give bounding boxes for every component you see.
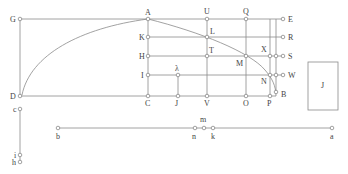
label-C: C (145, 99, 150, 108)
label-M: M (236, 59, 243, 68)
label-h: h (12, 158, 16, 167)
label-k: k (211, 132, 215, 141)
label-K: K (139, 33, 145, 42)
label-W: W (288, 71, 296, 80)
label-b: b (56, 132, 60, 141)
label-S: S (288, 52, 292, 61)
points (18, 17, 334, 164)
label-m: m (200, 115, 207, 124)
label-X: X (261, 45, 267, 54)
label-lambda: λ (175, 64, 179, 73)
label-A: A (145, 8, 151, 17)
curve-parabola-DA (22, 19, 148, 95)
label-U: U (204, 7, 210, 16)
label-Q: Q (243, 7, 249, 16)
label-c: c (13, 105, 17, 114)
label-D: D (10, 92, 16, 101)
label-G: G (10, 15, 16, 24)
label-n: n (192, 132, 196, 141)
label-V: V (204, 99, 210, 108)
label-H: H (139, 52, 145, 61)
label-box-J: J (321, 81, 324, 90)
label-L: L (210, 27, 215, 36)
label-B: B (281, 90, 286, 99)
label-R: R (288, 33, 294, 42)
label-E: E (288, 15, 293, 24)
label-O: O (243, 99, 249, 108)
label-N: N (261, 77, 267, 86)
label-a: a (330, 132, 334, 141)
label-P: P (267, 99, 272, 108)
label-T: T (209, 46, 214, 55)
label-I: I (141, 71, 144, 80)
label-J: J (175, 99, 178, 108)
geometric-diagram: G A U Q E K L R H T M X S I λ N W D C J … (0, 0, 348, 174)
